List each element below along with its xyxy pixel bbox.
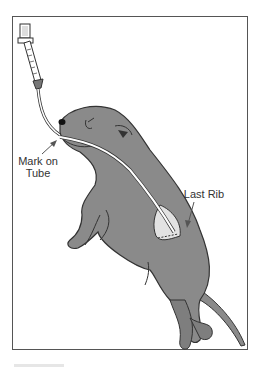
syringe-icon [18, 24, 43, 89]
mark-on-tube-label-line1: Mark on [16, 155, 60, 167]
mark-on-tube-arrow [42, 140, 57, 154]
last-rib-label: Last Rib [178, 188, 230, 200]
mark-on-tube-label: Mark on Tube [16, 155, 60, 179]
feeding-tube [38, 89, 60, 135]
mark-on-tube-label-line2: Tube [16, 167, 60, 179]
caption-placeholder [14, 364, 64, 367]
tube-feeding-illustration [0, 0, 264, 368]
